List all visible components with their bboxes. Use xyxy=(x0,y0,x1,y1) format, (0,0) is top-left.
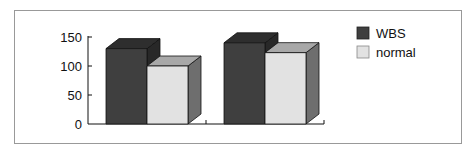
bars-group xyxy=(106,33,319,124)
y-tick-100: 100 xyxy=(60,59,82,74)
bar-wbs-1-front xyxy=(106,49,147,124)
y-tick-0: 0 xyxy=(75,117,82,132)
y-tick-50: 50 xyxy=(68,88,82,103)
bar-normal-1-front xyxy=(147,66,188,124)
legend-label-normal: normal xyxy=(376,45,416,60)
bar-normal-2-side xyxy=(306,43,319,124)
bar-normal-2-front xyxy=(265,53,306,124)
legend-swatch-normal xyxy=(357,46,369,58)
bar-wbs-2-front xyxy=(224,43,265,124)
y-tick-150: 150 xyxy=(60,30,82,45)
legend-swatch-wbs xyxy=(357,27,369,39)
bar-chart: 150 100 50 0 WBS normal xyxy=(0,0,476,154)
bar-normal-1-side xyxy=(188,56,201,124)
legend-label-wbs: WBS xyxy=(376,26,406,41)
